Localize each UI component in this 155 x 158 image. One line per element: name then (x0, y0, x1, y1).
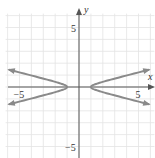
y-tick-label-5: 5 (71, 23, 76, 34)
curve-arrow-icon (143, 100, 151, 106)
curve-arrow-icon (7, 68, 15, 74)
y-axis-arrow-icon (76, 8, 82, 15)
tick-labels: x y −5 5 5 −5 (14, 4, 154, 153)
curve-arrow-icon (7, 100, 15, 106)
y-tick-label-neg5: −5 (65, 142, 76, 153)
axes (8, 8, 155, 158)
hyperbola-plot: x y −5 5 5 −5 (0, 0, 155, 158)
y-axis-label: y (83, 4, 89, 15)
x-tick-label-5: 5 (136, 89, 141, 100)
grid-lines (6, 14, 155, 158)
x-axis-label: x (147, 71, 153, 82)
x-axis-arrow-icon (148, 84, 155, 90)
x-tick-label-neg5: −5 (14, 89, 25, 100)
